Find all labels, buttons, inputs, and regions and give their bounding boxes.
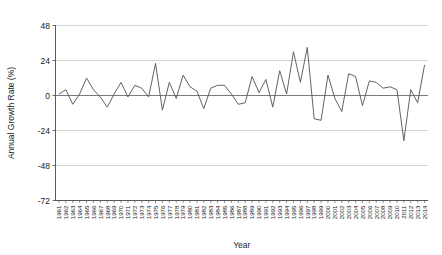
y-tick-label--72: -72 [38,196,51,206]
x-axis-title: Year [233,240,250,250]
x-tick-labels-group: 1961196219631964196519661967196819691970… [55,201,428,220]
chart-container: 48240-24-48-7219611962196319641965196619… [0,0,442,255]
x-tick-label-2014: 2014 [421,205,428,219]
growth-rate-line-chart: 48240-24-48-7219611962196319641965196619… [0,0,442,255]
y-tick-label--24: -24 [38,126,51,136]
y-tick-label-0: 0 [45,91,50,101]
series-group [59,47,425,140]
y-tick-labels-group: 48240-24-48-72 [38,21,56,206]
y-tick-label--48: -48 [38,161,51,171]
y-axis-title: Annual Growth Rate (%) [6,67,16,159]
y-tick-label-24: 24 [41,56,51,66]
y-tick-label-48: 48 [41,21,51,31]
series-line-0 [59,47,425,140]
gridlines-group [56,26,429,201]
axes-group [56,25,429,201]
